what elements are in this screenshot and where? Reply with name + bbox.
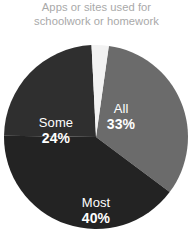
chart-title: Apps or sites used for schoolwork or hom… [0, 1, 193, 28]
pie-slice-some[interactable] [4, 45, 96, 137]
chart-title-line-2: schoolwork or homework [0, 15, 193, 29]
pie-plot-area: All 33% Most 40% Some 24% [0, 36, 193, 235]
pie-slices [4, 45, 188, 229]
chart-title-line-1: Apps or sites used for [0, 1, 193, 15]
pie-svg [0, 36, 193, 235]
pie-chart-figure: Apps or sites used for schoolwork or hom… [0, 0, 193, 235]
